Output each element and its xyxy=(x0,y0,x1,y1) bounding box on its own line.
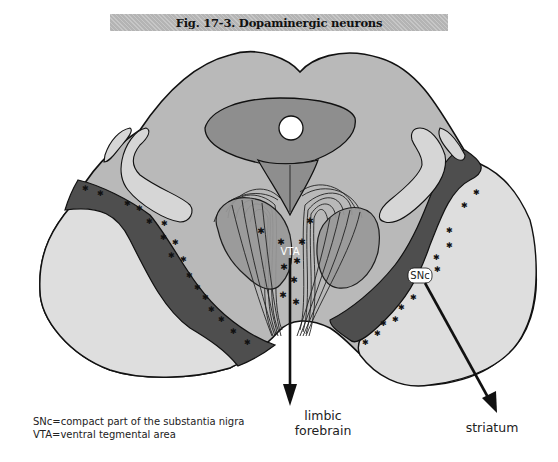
svg-text:✱: ✱ xyxy=(461,201,468,210)
svg-text:✱: ✱ xyxy=(290,275,298,285)
svg-text:✱: ✱ xyxy=(208,305,215,314)
svg-text:✱: ✱ xyxy=(362,338,369,347)
legend-item-vta: VTA=ventral tegmental area xyxy=(33,428,244,441)
svg-text:✱: ✱ xyxy=(293,256,301,266)
vta-label: VTA xyxy=(280,246,299,257)
abbreviation-legend: SNc=compact part of the substantia nigra… xyxy=(33,415,244,441)
svg-text:✱: ✱ xyxy=(136,204,143,213)
snc-label-badge: SNc xyxy=(408,268,432,283)
svg-text:✱: ✱ xyxy=(172,238,179,247)
svg-text:✱: ✱ xyxy=(124,199,131,208)
cerebral-aqueduct xyxy=(279,116,303,140)
midbrain-diagram: ✱ ✱ ✱ ✱ ✱ ✱ ✱ ✱ ✱ ✱ ✱ ✱ ✱ ✱ ✱ ✱ ✱ ✱ ✱ ✱ … xyxy=(0,0,558,462)
svg-text:✱: ✱ xyxy=(186,271,193,280)
svg-text:✱: ✱ xyxy=(398,303,405,312)
svg-text:✱: ✱ xyxy=(306,216,314,226)
svg-text:✱: ✱ xyxy=(279,290,287,300)
svg-text:✱: ✱ xyxy=(292,297,300,307)
svg-text:✱: ✱ xyxy=(180,255,187,264)
svg-text:✱: ✱ xyxy=(473,188,480,197)
svg-text:✱: ✱ xyxy=(202,293,209,302)
svg-text:✱: ✱ xyxy=(230,327,237,336)
svg-text:✱: ✱ xyxy=(257,226,265,236)
legend-item-snc: SNc=compact part of the substantia nigra xyxy=(33,415,244,428)
limbic-label-line2: forebrain xyxy=(287,423,359,438)
svg-text:✱: ✱ xyxy=(446,226,453,235)
svg-text:✱: ✱ xyxy=(280,262,288,272)
svg-text:✱: ✱ xyxy=(380,319,387,328)
svg-text:✱: ✱ xyxy=(168,251,175,260)
limbic-forebrain-label: limbic forebrain xyxy=(287,408,359,438)
svg-text:✱: ✱ xyxy=(218,315,225,324)
svg-text:✱: ✱ xyxy=(146,217,153,226)
snc-label: SNc xyxy=(410,270,429,281)
svg-text:✱: ✱ xyxy=(433,253,440,262)
limbic-label-line1: limbic xyxy=(287,408,359,423)
svg-text:✱: ✱ xyxy=(97,189,104,198)
svg-text:✱: ✱ xyxy=(374,329,381,338)
svg-text:✱: ✱ xyxy=(82,184,89,193)
svg-text:✱: ✱ xyxy=(160,233,167,242)
svg-text:✱: ✱ xyxy=(161,219,168,228)
svg-text:✱: ✱ xyxy=(434,265,441,274)
svg-text:✱: ✱ xyxy=(446,241,453,250)
svg-text:✱: ✱ xyxy=(194,283,201,292)
svg-text:✱: ✱ xyxy=(244,338,251,347)
svg-text:✱: ✱ xyxy=(392,315,399,324)
striatum-label: striatum xyxy=(452,420,532,435)
svg-text:✱: ✱ xyxy=(410,293,417,302)
